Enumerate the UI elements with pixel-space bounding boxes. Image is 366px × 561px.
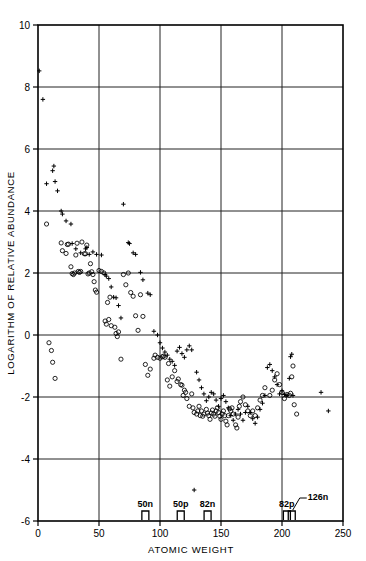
data-point-plus bbox=[231, 418, 235, 422]
data-point-plus bbox=[50, 169, 54, 173]
data-point-circle bbox=[236, 415, 240, 419]
data-point-plus bbox=[326, 409, 330, 413]
data-point-circle bbox=[53, 376, 57, 380]
y-tick-label: -6 bbox=[21, 516, 30, 527]
data-point-plus bbox=[192, 488, 196, 492]
magic-number-annotations: 50n50p82n82p126n bbox=[138, 492, 329, 520]
magic-number-marker: 50n bbox=[138, 499, 154, 520]
data-point-plus bbox=[44, 182, 48, 186]
data-point-circle bbox=[166, 361, 170, 365]
data-point-plus bbox=[255, 415, 259, 419]
y-tick-label: 8 bbox=[24, 82, 30, 93]
data-point-plus bbox=[216, 404, 220, 408]
y-axis-ticks: -6-4-20246810 bbox=[19, 20, 38, 527]
data-point-plus bbox=[246, 404, 250, 408]
data-point-circle bbox=[295, 412, 299, 416]
data-point-circle bbox=[80, 240, 84, 244]
data-point-plus bbox=[119, 316, 123, 320]
data-point-circle bbox=[51, 360, 55, 364]
magic-bracket-shape bbox=[288, 511, 295, 520]
data-point-circle bbox=[275, 372, 279, 376]
data-point-circle bbox=[49, 348, 53, 352]
x-tick-label: 200 bbox=[274, 528, 291, 539]
data-point-plus bbox=[224, 399, 228, 403]
data-point-plus bbox=[253, 421, 257, 425]
data-point-plus bbox=[52, 164, 56, 168]
magic-bracket-shape bbox=[204, 511, 211, 520]
magic-bracket-shape bbox=[142, 511, 149, 520]
data-point-plus bbox=[243, 410, 247, 414]
magic-bracket-shape bbox=[283, 511, 290, 520]
data-point-circle bbox=[107, 317, 111, 321]
x-tick-label: 0 bbox=[35, 528, 41, 539]
data-point-circle bbox=[270, 388, 274, 392]
y-tick-label: 4 bbox=[24, 206, 30, 217]
data-point-plus bbox=[190, 348, 194, 352]
data-point-plus bbox=[114, 296, 118, 300]
x-axis-title: ATOMIC WEIGHT bbox=[148, 544, 234, 555]
data-point-circle bbox=[143, 362, 147, 366]
data-point-plus bbox=[109, 285, 113, 289]
data-point-circle bbox=[291, 364, 295, 368]
data-point-plus bbox=[141, 278, 145, 282]
data-point-circle bbox=[44, 222, 48, 226]
data-point-plus bbox=[265, 365, 269, 369]
data-point-plus bbox=[287, 376, 291, 380]
data-point-plus bbox=[121, 202, 125, 206]
data-point-circle bbox=[88, 262, 92, 266]
magic-number-label: 50n bbox=[138, 499, 154, 509]
data-point-plus bbox=[182, 355, 186, 359]
data-point-plus bbox=[64, 219, 68, 223]
data-point-circle bbox=[173, 369, 177, 373]
data-point-circle bbox=[47, 341, 51, 345]
data-point-circle bbox=[138, 293, 142, 297]
data-point-circle bbox=[292, 403, 296, 407]
data-point-circle bbox=[141, 314, 145, 318]
data-point-plus bbox=[258, 407, 262, 411]
data-point-plus bbox=[199, 386, 203, 390]
y-tick-label: -4 bbox=[21, 454, 30, 465]
data-point-plus bbox=[197, 378, 201, 382]
data-point-plus bbox=[204, 399, 208, 403]
data-point-circle bbox=[131, 294, 135, 298]
data-point-plus bbox=[187, 344, 191, 348]
abundance-scatter-figure: 050100150200250 -6-4-20246810 50n50p82n8… bbox=[0, 0, 366, 561]
data-point-plus bbox=[180, 351, 184, 355]
data-point-circle bbox=[59, 241, 63, 245]
data-point-plus bbox=[138, 270, 142, 274]
data-point-plus bbox=[270, 368, 274, 372]
chart-canvas: 050100150200250 -6-4-20246810 50n50p82n8… bbox=[0, 0, 366, 561]
data-point-circle bbox=[105, 300, 109, 304]
data-point-circle bbox=[238, 400, 242, 404]
data-point-circle bbox=[170, 375, 174, 379]
data-point-plus bbox=[177, 345, 181, 349]
data-point-plus bbox=[116, 303, 120, 307]
data-point-plus bbox=[236, 407, 240, 411]
data-point-plus bbox=[94, 252, 98, 256]
data-point-circle bbox=[191, 406, 195, 410]
data-point-plus bbox=[158, 341, 162, 345]
data-point-plus bbox=[55, 189, 59, 193]
data-point-plus bbox=[155, 333, 159, 337]
data-point-plus bbox=[207, 395, 211, 399]
data-point-circle bbox=[119, 357, 123, 361]
data-point-plus bbox=[152, 329, 156, 333]
data-point-plus bbox=[202, 392, 206, 396]
data-point-circle bbox=[75, 241, 79, 245]
y-tick-label: -2 bbox=[21, 392, 30, 403]
data-point-plus bbox=[91, 250, 95, 254]
data-points bbox=[37, 69, 331, 493]
data-point-plus bbox=[41, 97, 45, 101]
magic-number-marker: 50p bbox=[173, 499, 189, 520]
y-tick-label: 6 bbox=[24, 144, 30, 155]
data-point-plus bbox=[194, 370, 198, 374]
data-point-circle bbox=[92, 280, 96, 284]
data-point-circle bbox=[148, 367, 152, 371]
x-tick-label: 150 bbox=[213, 528, 230, 539]
data-point-plus bbox=[99, 253, 103, 257]
data-point-plus bbox=[241, 418, 245, 422]
data-point-circle bbox=[168, 384, 172, 388]
data-point-circle bbox=[258, 398, 262, 402]
x-axis-ticks: 050100150200250 bbox=[35, 521, 352, 539]
data-point-circle bbox=[225, 423, 229, 427]
